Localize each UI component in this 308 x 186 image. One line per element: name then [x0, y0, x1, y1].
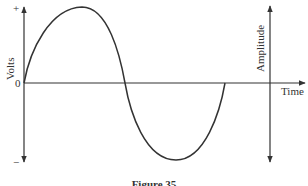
amplitude-label: Amplitude	[255, 25, 266, 72]
figure-caption: Figure 35	[0, 178, 308, 186]
time-label: Time	[281, 86, 304, 97]
minus-marker: −	[13, 157, 19, 168]
plus-marker: +	[13, 3, 19, 14]
volts-label: Volts	[5, 58, 16, 80]
